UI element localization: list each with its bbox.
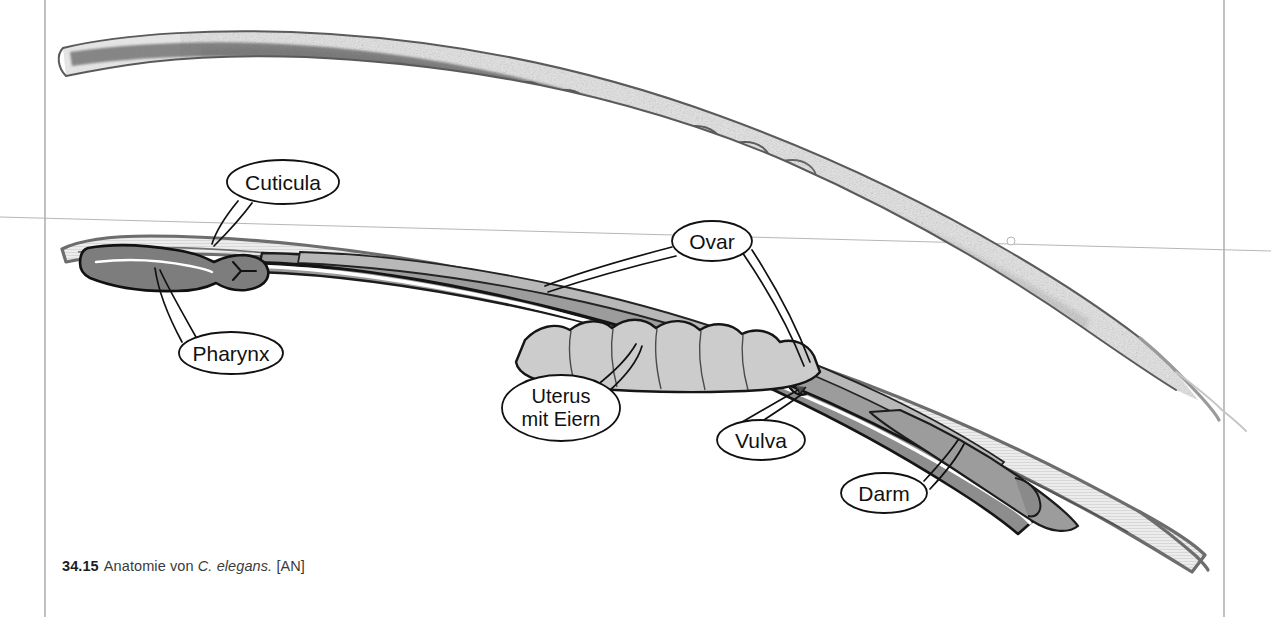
- label-vulva[interactable]: Vulva: [717, 420, 805, 460]
- label-pharynx[interactable]: Pharynx: [179, 332, 283, 374]
- label-ovar-text: Ovar: [689, 230, 735, 253]
- label-pharynx-text: Pharynx: [192, 342, 270, 365]
- micrograph-dark-band-1: [392, 62, 1060, 356]
- leader-ovar-left-a: [545, 247, 672, 286]
- label-cuticula-text: Cuticula: [245, 171, 321, 194]
- label-uterus[interactable]: Uterus mit Eiern: [502, 375, 620, 441]
- figure-number: 34.15: [62, 558, 99, 574]
- figure-caption-text: Anatomie von: [104, 558, 198, 574]
- anatomy-figure: Cuticula Pharynx Ovar Uterus mit Eiern V…: [0, 0, 1271, 617]
- label-darm[interactable]: Darm: [841, 473, 927, 513]
- figure-caption: 34.15Anatomie von C. elegans. [AN]: [62, 558, 305, 574]
- label-ovar[interactable]: Ovar: [672, 221, 752, 261]
- label-cuticula[interactable]: Cuticula: [227, 160, 339, 204]
- figure-page: Cuticula Pharynx Ovar Uterus mit Eiern V…: [0, 0, 1271, 617]
- label-uterus-line1: Uterus: [532, 385, 591, 407]
- schematic-panel: [62, 201, 1208, 572]
- label-vulva-text: Vulva: [735, 429, 787, 452]
- label-uterus-line2: mit Eiern: [522, 408, 601, 430]
- micrograph-tail-tip: [1176, 372, 1246, 431]
- figure-species-name: C. elegans.: [198, 558, 272, 574]
- micrograph-vacuole: [1007, 237, 1015, 245]
- leader-ovar-left-b: [548, 256, 676, 292]
- label-darm-text: Darm: [858, 482, 909, 505]
- figure-source: [AN]: [276, 558, 305, 574]
